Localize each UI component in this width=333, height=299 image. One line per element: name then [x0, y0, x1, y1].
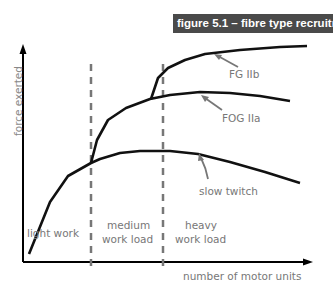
zone-heavy-label-line1: heavy — [185, 219, 217, 232]
pointer-slow-twitch — [201, 158, 208, 179]
label-fog-iia: FOG IIa — [222, 112, 260, 125]
x-axis-arrow-icon — [303, 259, 313, 266]
zone-heavy-label-line2: work load — [175, 233, 226, 246]
fibre-recruitment-diagram — [0, 0, 333, 299]
label-fg-iib: FG IIb — [229, 68, 259, 81]
zone-light-work-label: light work — [27, 227, 79, 240]
pointer-fg-iib — [218, 56, 238, 67]
label-slow-twitch: slow twitch — [199, 185, 258, 198]
y-axis-arrow-icon — [20, 44, 27, 54]
zone-medium-label-line2: work load — [102, 233, 153, 246]
pointer-fog-iia — [205, 98, 222, 110]
x-axis-label: number of motor units — [183, 270, 301, 283]
zone-medium-label-line1: medium — [107, 219, 150, 232]
y-axis-label: force exerted — [12, 61, 24, 141]
